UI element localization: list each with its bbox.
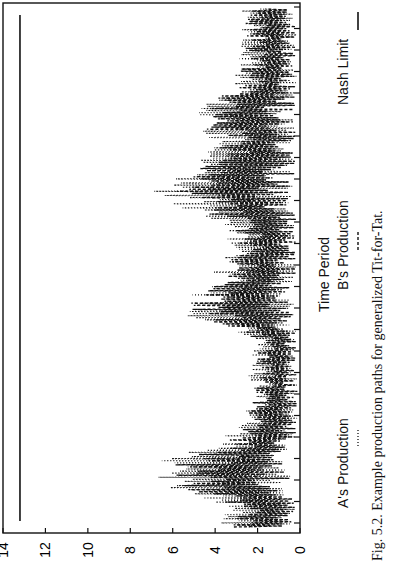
x-axis-title: Time Period xyxy=(316,237,332,312)
value-tick-label: 6 xyxy=(165,546,181,554)
legend-nash-label: Nash Limit xyxy=(335,39,351,105)
value-tick-label: 2 xyxy=(250,546,266,554)
value-tick-label: 14 xyxy=(0,542,11,558)
series-b-production xyxy=(176,9,298,527)
value-tick-label: 8 xyxy=(122,546,138,554)
value-tick-label: 10 xyxy=(80,542,96,558)
legend-b-label: B's Production xyxy=(335,200,351,290)
value-tick-label: 12 xyxy=(37,542,53,558)
value-tick-label: 0 xyxy=(292,546,308,554)
legend-a-label: A's Production xyxy=(335,418,351,508)
figure-caption: Fig. 5.2. Example production paths for g… xyxy=(370,210,386,561)
value-tick-label: 4 xyxy=(207,546,223,554)
